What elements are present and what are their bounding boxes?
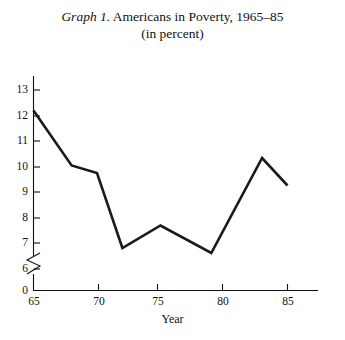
y-tick-label-10: 10 <box>6 160 28 172</box>
x-tick-label-80: 80 <box>210 295 236 307</box>
x-tick-label-85: 85 <box>275 295 301 307</box>
y-tick-label-6: 6 <box>6 262 28 274</box>
chart-page: Graph 1. Americans in Poverty, 1965–85 (… <box>0 0 345 340</box>
plot-area: 13 12 11 10 9 8 7 6 0 65 70 75 80 85 Yea… <box>0 0 345 340</box>
x-tick-label-65: 65 <box>21 295 47 307</box>
poverty-series-line <box>34 111 288 254</box>
x-axis-title: Year <box>0 312 345 327</box>
x-tick-label-70: 70 <box>86 295 112 307</box>
y-tick-label-11: 11 <box>6 134 28 146</box>
y-tick-label-12: 12 <box>6 109 28 121</box>
x-tick-label-75: 75 <box>145 295 171 307</box>
y-tick-label-9: 9 <box>6 185 28 197</box>
y-tick-label-13: 13 <box>6 83 28 95</box>
y-axis-break-icon <box>27 253 40 274</box>
y-tick-label-8: 8 <box>6 211 28 223</box>
y-tick-label-7: 7 <box>6 236 28 248</box>
